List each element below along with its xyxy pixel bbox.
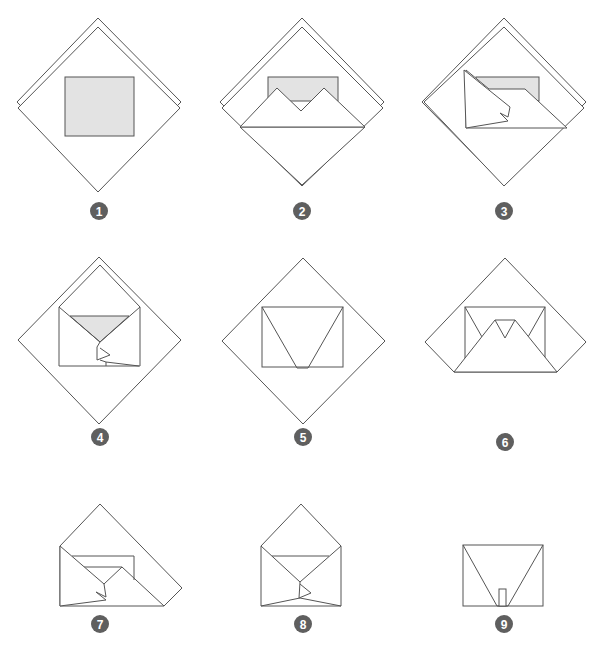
step-4-number: 4: [97, 431, 104, 445]
folding-diagram: 1 2 3 4: [0, 0, 603, 648]
step-1-badge: 1: [90, 202, 108, 220]
step-2-badge: 2: [293, 202, 311, 220]
step-7-badge: 7: [91, 615, 109, 633]
envelope-body: [262, 307, 343, 367]
step-5-figure: [222, 258, 385, 424]
step-5-badge: 5: [294, 428, 312, 446]
step-6-badge: 6: [496, 433, 514, 451]
step-1-figure: [17, 18, 181, 192]
card: [65, 77, 134, 136]
step-2-number: 2: [299, 205, 306, 219]
step-6-number: 6: [502, 436, 509, 450]
step-6-figure: [425, 258, 586, 372]
step-9-figure: [463, 545, 543, 606]
step-8-badge: 8: [294, 615, 312, 633]
step-3-number: 3: [501, 205, 508, 219]
step-4-figure: [18, 257, 181, 424]
lower-sheet: [240, 127, 365, 185]
step-9-badge: 9: [495, 615, 513, 633]
step-4-badge: 4: [91, 428, 109, 446]
step-3-badge: 3: [495, 202, 513, 220]
step-8-number: 8: [300, 618, 307, 632]
step-3-figure: [422, 18, 586, 186]
step-7-number: 7: [97, 618, 104, 632]
step-9-number: 9: [501, 618, 508, 632]
step-5-number: 5: [300, 431, 307, 445]
step-8-figure: [261, 504, 341, 606]
tab: [499, 589, 506, 606]
step-1-number: 1: [96, 205, 103, 219]
envelope: [261, 504, 341, 606]
step-2-figure: [220, 18, 384, 186]
step-7-figure: [60, 504, 182, 606]
